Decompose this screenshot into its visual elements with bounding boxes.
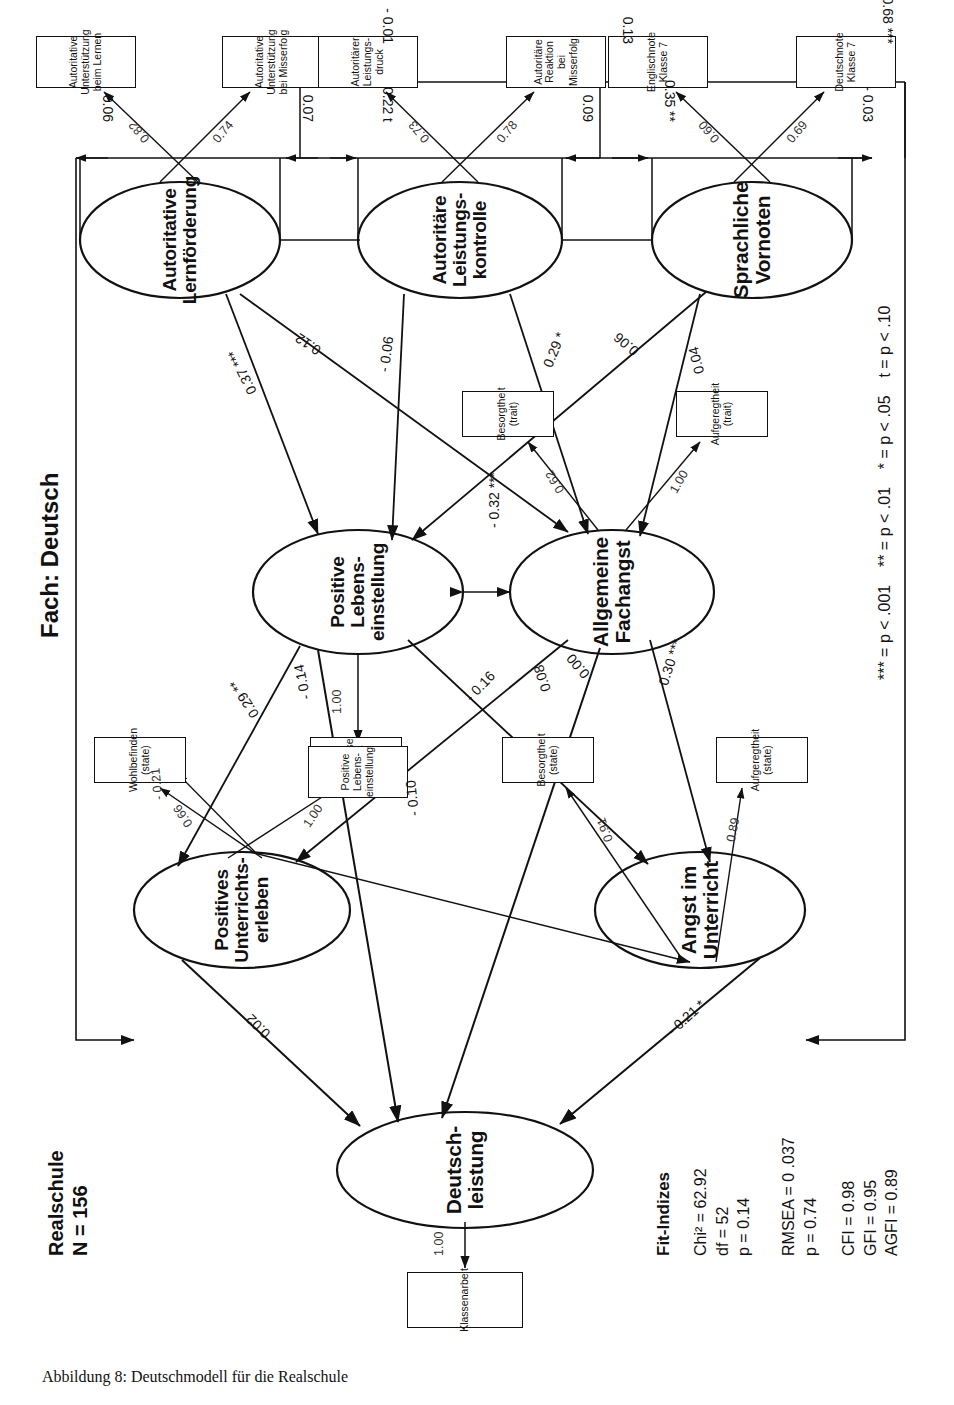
fit-indices-group3: CFI = 0.98 GFI = 0.95 AGFI = 0.89 (838, 1169, 903, 1256)
edge-lernfoerder-unterstuetzung-lernen (104, 92, 198, 182)
indicator-besorgtheit-state: Besorgtheit (state) (502, 737, 594, 783)
indicator-klassenarbeit: Klassenarbeit (407, 1272, 523, 1328)
edge-fachangst-aufgeregtheit-trait (626, 442, 700, 530)
ellipse-deutschleistung (337, 1112, 593, 1228)
fit-indices-group1: Chi² = 62.92 df = 52 p = 0.14 (690, 1168, 755, 1256)
ellipse-aut-leistkontr (358, 182, 562, 298)
edge-leistkontr-reaktion-misserfolg (442, 92, 534, 182)
edge-angst-to-leistung (560, 958, 760, 1124)
significance-legend: *** = p < .001 ** = p < .01 * = p < .05 … (876, 306, 894, 680)
edge-leistkontr-leistungsdruck (386, 92, 478, 182)
ellipse-aut-lernfoerder (80, 182, 280, 298)
edge-posunt-interesse (228, 788, 336, 858)
edge-vornoten-deutschnote (734, 92, 824, 182)
indicator-aut-reaktion-misserfolg: Autoritäre Reaktion bei Misserfolg (506, 36, 606, 88)
edge-fachangst-to-angst (650, 640, 710, 862)
edge-leistkontr-to-posleben (392, 294, 404, 540)
rotated-diagram-wrapper: Deutsch- leistung Positives Unterrichts-… (0, 0, 930, 1340)
ellipse-spr-vornoten (652, 182, 852, 298)
fit-indices-title: Fit-Indizes (654, 1172, 674, 1256)
indicator-besorgtheit-trait: Besorgtheit (trait) (462, 391, 554, 437)
edge-posleben-to-posunt (178, 646, 300, 866)
indicator-aufgeregtheit-trait: Aufgeregtheit (trait) (676, 391, 768, 437)
ellipse-allg-fachangst (510, 530, 714, 654)
sample-header: Realschule N = 156 (44, 1150, 92, 1256)
figure-page: Deutsch- leistung Positives Unterrichts-… (0, 0, 954, 1405)
corr-rail-to-posunt (76, 158, 134, 1040)
indicator-pos-lebenseinstellung: Positive Lebens- einstellung (308, 746, 408, 798)
diagram-canvas: Deutsch- leistung Positives Unterrichts-… (0, 0, 930, 1340)
edge-lernfoerder-to-posleben (226, 294, 318, 534)
edge-fachangst-to-leistung (442, 648, 600, 1118)
edge-vornoten-to-posleben (412, 292, 706, 540)
fit-indices-group2: RMSEA = 0 .037 p = 0.74 (778, 1137, 821, 1256)
indicator-wohlbefinden-state: Wohlbefinden (state) (94, 737, 186, 783)
ellipse-angst-unterricht (595, 852, 805, 968)
subject-header: Fach: Deutsch (36, 473, 64, 638)
edge-posunt-to-besorgtheit-state (178, 774, 255, 852)
ellipse-pos-leben (253, 530, 463, 654)
indicator-englischnote-klasse7: Englischnote Klasse 7 (608, 36, 708, 88)
edge-vornoten-englischnote (676, 92, 770, 182)
edge-posunt-wohlbefinden (160, 788, 262, 858)
indicator-aut-unterstuetzung-misserfolg: Autoritative Unterstützung bei Misserfol… (222, 36, 322, 88)
indicator-aufgeregtheit-state: Aufgeregtheit (state) (716, 737, 808, 783)
indicator-aut-leistungsdruck: Autoritärer Leistungs- druck (318, 36, 418, 88)
indicator-deutschnote-klasse7: Deutschnote Klasse 7 (796, 36, 896, 88)
indicator-aut-unterstuetzung-lernen: Autoritative Unterstützung beim Lernen (36, 36, 136, 88)
edge-posunt-to-leistung (182, 960, 360, 1126)
figure-caption: Abbildung 8: Deutschmodell für die Reals… (42, 1368, 912, 1386)
edge-lernfoerder-unterstuetzung-misserfolg (160, 92, 250, 182)
